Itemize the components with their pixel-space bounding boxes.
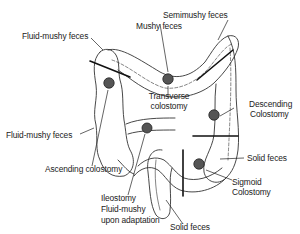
transverse-colon xyxy=(108,36,239,97)
label-sigmoid-2: Colostomy xyxy=(232,187,271,197)
label-descending-2: Colostomy xyxy=(250,109,289,119)
label-solid-bottom: Solid feces xyxy=(170,222,210,232)
stoma-ileostomy xyxy=(142,123,152,133)
label-solid-right: Solid feces xyxy=(247,153,287,163)
label-fluid-mushy-left: Fluid-mushy feces xyxy=(6,130,72,140)
label-mushy: Mushy feces xyxy=(136,21,182,31)
label-ileostomy-3: upon adaptation xyxy=(101,215,160,225)
label-transverse-1: Transverse xyxy=(147,91,191,101)
stoma-ascending xyxy=(104,78,114,88)
stoma-descending xyxy=(209,110,219,120)
label-semimushy: Semimushy feces xyxy=(163,10,228,20)
label-fluid-mushy-top: Fluid-mushy feces xyxy=(22,31,88,41)
label-sigmoid-1: Sigmoid xyxy=(232,177,262,187)
stoma-sigmoid xyxy=(194,159,204,169)
label-transverse-2: colostomy xyxy=(147,101,191,111)
stoma-transverse xyxy=(163,74,173,84)
ascending-colon xyxy=(94,49,133,176)
label-descending-1: Descending xyxy=(249,99,292,109)
label-ileostomy-2: Fluid-mushy xyxy=(101,204,146,214)
label-ileostomy-1: Ileostomy xyxy=(101,193,136,203)
label-ascending: Ascending colostomy xyxy=(45,164,122,174)
division-line-hepatic xyxy=(90,61,130,77)
